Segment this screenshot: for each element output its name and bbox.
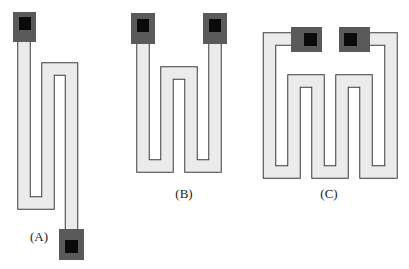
panel-c-pad-right-contact (344, 33, 357, 46)
panel-b: (B) (131, 13, 227, 201)
panel-b-strip (143, 38, 215, 166)
panel-b-pad-right-contact (209, 19, 221, 32)
panel-b-label: (B) (175, 186, 192, 201)
panel-c-label: (C) (320, 186, 337, 201)
panel-a: (A) (13, 12, 84, 260)
panel-a-strip (24, 38, 72, 236)
panel-c-pad-left-contact (304, 33, 317, 46)
panel-b-strip-outline (143, 38, 215, 166)
panel-c: (C) (270, 27, 392, 201)
panel-a-pad-top-contact (19, 17, 31, 30)
panel-b-pad-left-contact (137, 19, 149, 32)
serpentine-resistor-figure: (A) (B) (C) (0, 0, 409, 269)
panel-a-pad-bottom-contact (65, 240, 78, 253)
panel-a-label: (A) (30, 229, 48, 244)
panel-c-strip-outline (270, 39, 392, 172)
